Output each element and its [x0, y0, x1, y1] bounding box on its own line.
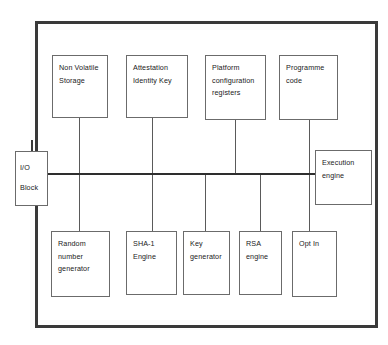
attestation-identity-key-line-2: Identity Key	[133, 75, 182, 88]
non-volatile-storage-line-2: Storage	[59, 75, 102, 88]
diagram-canvas: I/O Block Non Volatile Storage Attestati…	[0, 0, 388, 345]
platform-configuration-registers-line-2: configuration	[212, 75, 260, 88]
programme-code-line-2: code	[286, 75, 332, 88]
programme-code-line-1: Programme	[286, 62, 332, 75]
key-generator-line-1: Key	[190, 238, 224, 251]
io-block[interactable]: I/O Block	[15, 151, 48, 206]
execution-engine-line-1: Execution	[322, 157, 366, 170]
opt-in-line-1: Opt In	[299, 238, 331, 251]
key-generator-line-2: generator	[190, 251, 224, 264]
io-block-line-2: Block	[20, 178, 45, 198]
random-number-generator-box[interactable]: Random number generator	[51, 231, 110, 297]
key-generator-box[interactable]: Key generator	[183, 231, 230, 295]
io-block-line-1: I/O	[20, 158, 45, 178]
sha-1-engine-line-1: SHA-1	[133, 238, 171, 251]
sha-1-engine-line-2: Engine	[133, 251, 171, 264]
attestation-identity-key-box[interactable]: Attestation Identity Key	[126, 55, 188, 118]
non-volatile-storage-line-1: Non Volatile	[59, 62, 102, 75]
non-volatile-storage-box[interactable]: Non Volatile Storage	[52, 55, 108, 118]
internal-bus-line	[48, 173, 320, 175]
connector-platform-configuration-registers	[235, 120, 236, 174]
random-number-generator-line-1: Random	[58, 238, 104, 251]
opt-in-box[interactable]: Opt In	[292, 231, 337, 297]
execution-engine-line-2: engine	[322, 170, 366, 183]
connector-rsa-engine	[260, 174, 261, 231]
platform-configuration-registers-line-1: Platform	[212, 62, 260, 75]
execution-engine-box[interactable]: Execution engine	[315, 150, 372, 205]
attestation-identity-key-line-1: Attestation	[133, 62, 182, 75]
platform-configuration-registers-line-3: registers	[212, 87, 260, 100]
sha-1-engine-box[interactable]: SHA-1 Engine	[126, 231, 177, 295]
random-number-generator-line-2: number	[58, 251, 104, 264]
platform-configuration-registers-box[interactable]: Platform configuration registers	[205, 55, 266, 120]
rsa-engine-line-2: engine	[246, 251, 276, 264]
rsa-engine-line-1: RSA	[246, 238, 276, 251]
programme-code-box[interactable]: Programme code	[279, 55, 338, 120]
connector-programme-code	[309, 120, 310, 231]
random-number-generator-line-3: generator	[58, 263, 104, 276]
rsa-engine-box[interactable]: RSA engine	[239, 231, 282, 295]
connector-key-generator	[205, 174, 206, 231]
